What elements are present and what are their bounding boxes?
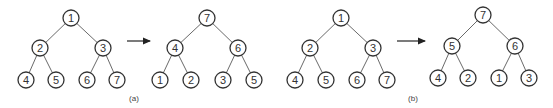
svg-text:5: 5 (53, 74, 59, 86)
tree-a-after: 7 4 6 1 2 3 5 (152, 10, 262, 88)
svg-text:2: 2 (37, 42, 43, 54)
svg-text:6: 6 (235, 42, 241, 54)
tree-node: 7 (379, 72, 395, 88)
tree-node: 5 (48, 72, 64, 88)
tree-node: 4 (430, 70, 446, 86)
svg-text:3: 3 (220, 74, 226, 86)
tree-node: 3 (521, 70, 537, 86)
svg-text:2: 2 (465, 72, 471, 84)
caption-b: (b) (408, 94, 418, 103)
svg-text:5: 5 (251, 74, 257, 86)
tree-node: 3 (215, 72, 231, 88)
svg-text:2: 2 (307, 42, 313, 54)
tree-node: 1 (152, 72, 168, 88)
tree-node: 1 (491, 70, 507, 86)
svg-text:1: 1 (157, 74, 163, 86)
svg-text:7: 7 (480, 9, 486, 21)
tree-node: 6 (79, 72, 95, 88)
svg-text:1: 1 (68, 12, 74, 24)
tree-node: 7 (109, 72, 125, 88)
svg-text:4: 4 (23, 74, 29, 86)
tree-node: 1 (333, 10, 349, 26)
tree-node: 4 (287, 72, 303, 88)
svg-text:2: 2 (188, 74, 194, 86)
tree-node: 2 (32, 40, 48, 56)
svg-text:1: 1 (496, 72, 502, 84)
tree-node: 3 (95, 40, 111, 56)
tree-node: 1 (63, 10, 79, 26)
tree-node: 3 (365, 40, 381, 56)
tree-node: 4 (167, 40, 183, 56)
tree-node: 5 (246, 72, 262, 88)
svg-text:4: 4 (435, 72, 441, 84)
svg-text:4: 4 (172, 42, 178, 54)
tree-node: 2 (460, 70, 476, 86)
svg-text:4: 4 (292, 74, 298, 86)
svg-text:6: 6 (84, 74, 90, 86)
caption-a: (a) (129, 94, 139, 103)
tree-node: 5 (444, 38, 460, 54)
svg-text:7: 7 (204, 12, 210, 24)
svg-text:6: 6 (354, 74, 360, 86)
svg-text:7: 7 (114, 74, 120, 86)
svg-text:1: 1 (338, 12, 344, 24)
svg-text:3: 3 (370, 42, 376, 54)
tree-node: 7 (199, 10, 215, 26)
tree-a-before: 1 2 3 4 5 6 7 (18, 10, 125, 88)
tree-node: 2 (302, 40, 318, 56)
tree-node: 4 (18, 72, 34, 88)
tree-node: 6 (507, 38, 523, 54)
tree-node: 6 (349, 72, 365, 88)
tree-b-before: 1 2 3 4 5 6 7 (287, 10, 395, 88)
svg-text:5: 5 (449, 40, 455, 52)
svg-text:3: 3 (526, 72, 532, 84)
svg-text:6: 6 (512, 40, 518, 52)
tree-node: 5 (318, 72, 334, 88)
tree-b-after: 7 5 6 4 2 1 3 (430, 7, 537, 86)
svg-text:5: 5 (323, 74, 329, 86)
heap-diagram-canvas: 1 2 3 4 5 6 7 (a) 7 4 6 1 2 3 5 1 2 3 4 … (0, 0, 553, 108)
tree-node: 7 (475, 7, 491, 23)
svg-text:3: 3 (100, 42, 106, 54)
tree-node: 6 (230, 40, 246, 56)
svg-text:7: 7 (384, 74, 390, 86)
tree-node: 2 (183, 72, 199, 88)
